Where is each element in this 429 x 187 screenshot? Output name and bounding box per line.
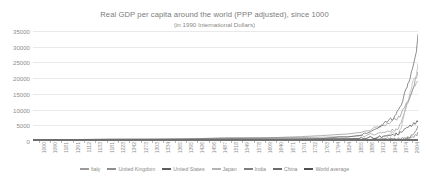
legend-item[interactable]: China (273, 166, 298, 172)
legend-label: United Kingdom (118, 166, 155, 172)
x-tick-label: 1365 (177, 142, 183, 153)
x-tick-label: 1303 (154, 142, 160, 153)
x-tick (209, 141, 210, 143)
x-tick-label: 1912 (380, 142, 386, 153)
x-tick (50, 141, 51, 143)
y-tick-label: 35000 (13, 28, 30, 35)
x-tick-label: 1824 (346, 142, 352, 153)
x-tick (299, 141, 300, 143)
x-tick-label: 1342 (131, 142, 137, 153)
x-tick (288, 141, 289, 143)
legend-item[interactable]: India (244, 166, 266, 172)
x-axis: 1000109011811291111211331181122313421273… (33, 142, 418, 164)
x-tick (231, 141, 232, 143)
x-tick (39, 141, 40, 143)
x-tick-label: 1855 (358, 142, 364, 153)
x-tick (367, 141, 368, 143)
y-tick-label: 30000 (13, 43, 30, 50)
x-tick (322, 141, 323, 143)
x-tick (333, 141, 334, 143)
x-tick-label: 1273 (143, 142, 149, 153)
x-tick-label: 1456 (211, 142, 217, 153)
x-tick-label: 1133 (97, 142, 103, 153)
x-tick-label: 1395 (188, 142, 194, 153)
x-tick (152, 141, 153, 143)
x-tick (175, 141, 176, 143)
legend-swatch (212, 168, 221, 169)
legend-swatch (162, 168, 171, 169)
x-tick (118, 141, 119, 143)
legend-item[interactable]: World average (304, 166, 349, 172)
x-tick-label: 1671 (290, 142, 296, 153)
y-axis: 05000100001500020000250003000035000 (0, 31, 30, 141)
x-tick (254, 141, 255, 143)
x-tick-label: 1223 (120, 142, 126, 153)
series-line (33, 72, 418, 140)
plot-area (33, 31, 418, 141)
x-tick-label: 1701 (301, 142, 307, 153)
x-tick (265, 141, 266, 143)
x-tick-label: 1291 (75, 142, 81, 153)
x-tick (401, 141, 402, 143)
legend-label: China (284, 166, 298, 172)
legend-swatch (107, 168, 116, 169)
x-tick-label: 1181 (63, 142, 69, 153)
x-tick-label: 1518 (233, 142, 239, 153)
x-tick (73, 141, 74, 143)
x-tick (356, 141, 357, 143)
series-line (33, 121, 418, 140)
x-tick-label: 1426 (199, 142, 205, 153)
x-tick (220, 141, 221, 143)
legend-label: Italy (91, 166, 101, 172)
y-tick-label: 0 (27, 138, 30, 145)
legend-item[interactable]: Italy (80, 166, 101, 172)
x-tick-label: 1794 (335, 142, 341, 153)
x-tick-label: 2004 (414, 142, 420, 153)
series-line (33, 63, 418, 140)
legend-label: India (255, 166, 266, 172)
x-tick-label: 1487 (222, 142, 228, 153)
x-tick-label: 1763 (324, 142, 330, 153)
x-tick-label: 1609 (267, 142, 273, 153)
legend-swatch (304, 168, 313, 169)
x-tick-label: 1578 (256, 142, 262, 153)
series-line (33, 81, 418, 140)
x-tick (107, 141, 108, 143)
y-tick-label: 20000 (13, 75, 30, 82)
x-tick-label: 1640 (278, 142, 284, 153)
x-tick (390, 141, 391, 143)
chart-subtitle: (in 1990 International Dollars) (0, 21, 429, 28)
legend-item[interactable]: United States (162, 166, 204, 172)
x-tick-label: 1974 (403, 142, 409, 153)
x-tick-label: 1886 (369, 142, 375, 153)
series-line (33, 34, 418, 140)
y-tick-label: 25000 (13, 59, 30, 66)
legend-item[interactable]: Japan (212, 166, 237, 172)
x-tick-label: 1000 (41, 142, 47, 153)
legend-label: World average (315, 166, 349, 172)
x-tick-label: 1943 (392, 142, 398, 153)
y-tick-label: 15000 (13, 90, 30, 97)
chart-container: Real GDP per capita around the world (PP… (0, 0, 429, 187)
legend-item[interactable]: United Kingdom (107, 166, 155, 172)
x-tick-label: 1549 (244, 142, 250, 153)
x-tick-label: 1181 (109, 142, 115, 153)
y-tick-label: 5000 (16, 122, 30, 129)
x-tick-label: 1090 (52, 142, 58, 153)
x-tick-label: 1112 (86, 142, 92, 153)
x-tick (84, 141, 85, 143)
chart-title: Real GDP per capita around the world (PP… (0, 10, 429, 19)
legend-label: United States (173, 166, 204, 172)
x-tick (141, 141, 142, 143)
chart-legend: ItalyUnited KingdomUnited StatesJapanInd… (0, 166, 429, 172)
legend-label: Japan (223, 166, 237, 172)
series-lines (33, 31, 418, 141)
x-tick-label: 1334 (165, 142, 171, 153)
x-tick-label: 1732 (312, 142, 318, 153)
legend-swatch (273, 168, 282, 169)
legend-swatch (80, 168, 89, 169)
legend-swatch (244, 168, 253, 169)
y-tick-label: 10000 (13, 106, 30, 113)
x-tick (186, 141, 187, 143)
